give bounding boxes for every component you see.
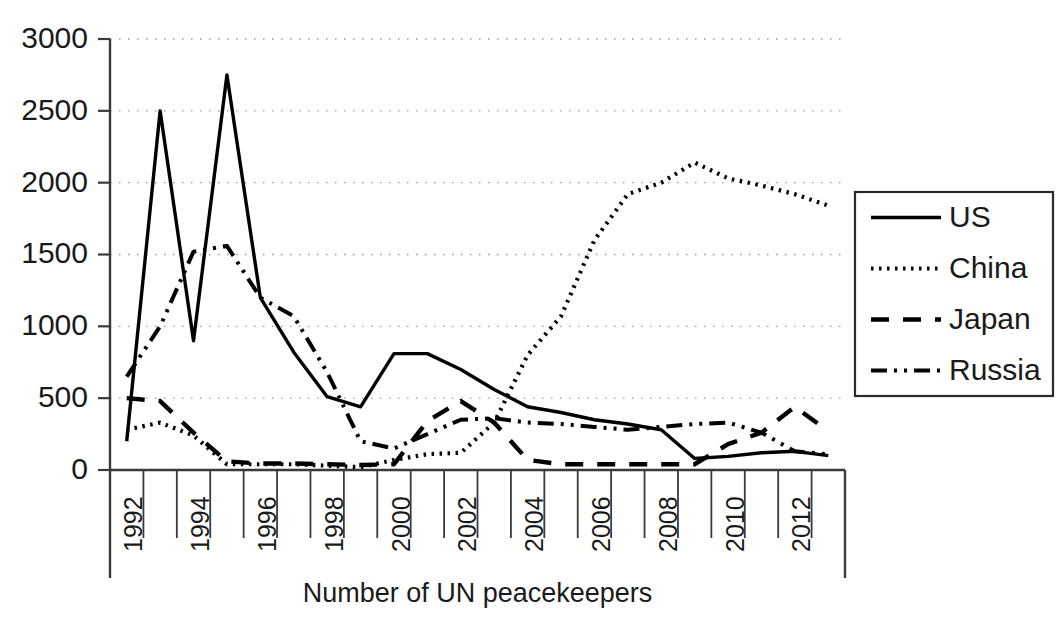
y-tick-label-1000: 1000 — [21, 308, 88, 341]
legend-label-japan: Japan — [949, 302, 1031, 335]
x-tick-label-1994: 1994 — [186, 496, 214, 552]
y-tick-label-3000: 3000 — [21, 21, 88, 54]
x-tick-label-1996: 1996 — [253, 496, 281, 552]
x-tick-label-2006: 2006 — [587, 496, 615, 552]
x-tick-label-2012: 2012 — [787, 496, 815, 552]
y-axis-labels-group: 050010001500200025003000 — [21, 21, 88, 485]
chart-container: 050010001500200025003000 199219941996199… — [0, 0, 1062, 633]
x-tick-label-2000: 2000 — [387, 496, 415, 552]
x-tick-label-2004: 2004 — [520, 496, 548, 552]
y-tick-label-2500: 2500 — [21, 93, 88, 126]
x-axis-title-group: Number of UN peacekeepers — [303, 578, 653, 608]
legend-label-russia: Russia — [949, 353, 1041, 386]
series-line-japan — [127, 398, 829, 465]
x-axis-title: Number of UN peacekeepers — [303, 578, 653, 608]
data-series-group — [127, 75, 829, 467]
y-tick-label-0: 0 — [71, 452, 88, 485]
chart-legend: USChinaJapanRussia — [855, 192, 1053, 396]
series-line-us — [127, 75, 829, 459]
y-tick-label-2000: 2000 — [21, 165, 88, 198]
x-tick-label-2008: 2008 — [654, 496, 682, 552]
y-axis-ticks-group — [98, 39, 110, 470]
legend-label-us: US — [949, 200, 991, 233]
x-tick-label-2002: 2002 — [453, 496, 481, 552]
gridlines-group — [110, 39, 845, 398]
y-tick-label-1500: 1500 — [21, 236, 88, 269]
y-tick-label-500: 500 — [38, 380, 88, 413]
x-tick-label-1998: 1998 — [320, 496, 348, 552]
line-chart: 050010001500200025003000 199219941996199… — [0, 0, 1062, 633]
legend-label-china: China — [949, 251, 1028, 284]
x-tick-label-2010: 2010 — [721, 496, 749, 552]
x-tick-label-1992: 1992 — [119, 496, 147, 552]
series-line-russia — [127, 246, 829, 454]
